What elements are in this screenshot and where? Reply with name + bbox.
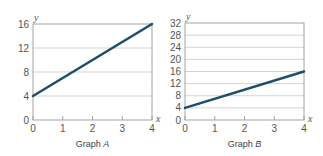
x-tick-label: 4 bbox=[301, 123, 307, 134]
y-tick-label: 24 bbox=[170, 42, 182, 53]
graph-a: 048121601234yxGraph A bbox=[18, 12, 161, 149]
y-axis-label: y bbox=[185, 11, 191, 22]
data-line bbox=[33, 24, 152, 96]
x-axis-label: x bbox=[307, 113, 313, 124]
graph-b: 04812162024283201234yxGraph B bbox=[170, 11, 313, 149]
y-tick-label: 32 bbox=[170, 18, 182, 29]
data-line bbox=[185, 72, 304, 108]
x-tick-label: 4 bbox=[149, 123, 155, 134]
x-tick-label: 1 bbox=[212, 123, 218, 134]
y-tick-label: 16 bbox=[18, 19, 30, 30]
y-tick-label: 16 bbox=[170, 66, 182, 77]
y-tick-label: 0 bbox=[175, 115, 181, 126]
x-tick-label: 3 bbox=[271, 123, 277, 134]
graph-caption: Graph A bbox=[76, 139, 110, 149]
x-tick-label: 1 bbox=[60, 123, 66, 134]
y-tick-label: 20 bbox=[170, 54, 182, 65]
y-tick-label: 12 bbox=[170, 78, 182, 89]
y-tick-label: 28 bbox=[170, 30, 182, 41]
x-tick-label: 2 bbox=[90, 123, 96, 134]
x-tick-label: 0 bbox=[30, 123, 36, 134]
y-tick-label: 12 bbox=[18, 43, 30, 54]
y-tick-label: 8 bbox=[175, 90, 181, 101]
y-tick-label: 0 bbox=[23, 115, 29, 126]
y-tick-label: 4 bbox=[23, 91, 29, 102]
x-tick-label: 2 bbox=[242, 123, 248, 134]
x-tick-label: 0 bbox=[182, 123, 188, 134]
x-axis-label: x bbox=[155, 113, 161, 124]
x-tick-label: 3 bbox=[119, 123, 125, 134]
y-axis-label: y bbox=[33, 12, 39, 23]
y-tick-label: 4 bbox=[175, 102, 181, 113]
y-tick-label: 8 bbox=[23, 67, 29, 78]
graph-caption: Graph B bbox=[228, 139, 262, 149]
charts: 048121601234yxGraph A 048121620242832012… bbox=[0, 0, 323, 156]
